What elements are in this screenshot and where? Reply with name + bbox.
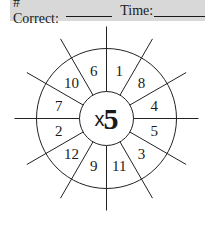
wheel-number: 9: [90, 158, 98, 174]
multiplication-wheel: 184531191227106 x 5: [0, 0, 218, 228]
multiplier-value: 5: [104, 102, 119, 135]
wheel-number: 6: [90, 63, 98, 79]
wheel-number: 1: [116, 63, 124, 79]
wheel-number: 2: [55, 123, 63, 139]
wheel-number: 5: [151, 123, 159, 139]
wheel-number: 8: [138, 75, 146, 91]
wheel-number: 10: [64, 75, 79, 91]
wheel-number: 12: [64, 146, 79, 162]
wheel-number: 3: [138, 146, 146, 162]
wheel-number: 11: [112, 158, 126, 174]
wheel-number: 7: [55, 98, 63, 114]
wheel-number: 4: [151, 98, 159, 114]
